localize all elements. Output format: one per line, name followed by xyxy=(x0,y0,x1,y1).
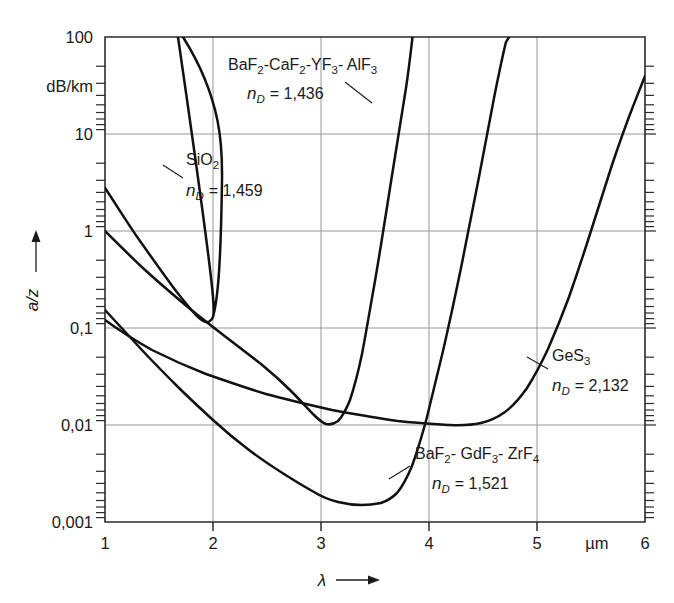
x-tick-label-4: 4 xyxy=(424,534,433,552)
n-letter: n xyxy=(247,84,256,103)
x-major-ticks xyxy=(213,522,537,531)
lbl-a: SiO xyxy=(186,151,213,168)
n-value: = 1,521 xyxy=(455,475,509,492)
y-axis-name-group: a/z xyxy=(23,230,42,311)
label-baf2-caf2-yf3-alf3-index: nD= 1,436 xyxy=(247,84,324,105)
n-sub: D xyxy=(256,93,264,105)
n-letter: n xyxy=(186,181,195,200)
y-tick-label-1: 1 xyxy=(84,222,93,240)
lbl-c: -YF xyxy=(306,56,332,73)
y-axis-unit-caption: dB/km xyxy=(46,77,93,95)
label-sio2-formula: SiO2 xyxy=(186,151,219,171)
y-axis-name: a/z xyxy=(23,288,42,311)
lbl-a-sub: 2 xyxy=(213,159,219,171)
label-baf2-caf2-yf3-alf3-formula: BaF2-CaF2-YF3- AlF3 xyxy=(228,56,377,76)
label-sio2-index: nD= 1,459 xyxy=(186,181,263,202)
x-axis-unit-caption: µm xyxy=(585,534,608,552)
y-minor-ticks-right xyxy=(645,66,656,517)
lbl-b: - GdF xyxy=(451,445,492,462)
y-tick-label-0-01: 0,01 xyxy=(61,416,93,434)
n-sub: D xyxy=(441,483,449,495)
label-ges3-formula: GeS3 xyxy=(552,347,590,367)
curve-baf2-gdf3-zrf4 xyxy=(105,37,509,505)
x-axis-name-group: λ xyxy=(317,571,380,590)
curve-ges3 xyxy=(105,76,645,425)
lbl-a: BaF xyxy=(228,56,258,73)
y-tick-labels: 100 10 1 0,1 0,01 0,001 xyxy=(52,28,93,531)
chart-svg: 100 10 1 0,1 0,01 0,001 dB/km a/z 1 2 3 … xyxy=(0,0,674,603)
label-baf2-gdf3-zrf4-index: nD= 1,521 xyxy=(432,474,509,495)
n-letter: n xyxy=(552,376,561,395)
y-tick-label-10: 10 xyxy=(75,125,93,143)
lbl-c: - ZrF xyxy=(498,445,533,462)
attenuation-chart-figure: 100 10 1 0,1 0,01 0,001 dB/km a/z 1 2 3 … xyxy=(0,0,674,603)
lbl-b: -CaF xyxy=(264,56,300,73)
x-tick-label-2: 2 xyxy=(208,534,217,552)
n-letter: n xyxy=(432,474,441,493)
label-ges3-index: nD= 2,132 xyxy=(552,376,629,397)
lbl-d: - AlF xyxy=(338,56,371,73)
n-sub: D xyxy=(195,190,203,202)
n-value: = 1,436 xyxy=(270,85,324,102)
lbl-a: GeS xyxy=(552,347,584,364)
x-axis-name: λ xyxy=(317,571,326,590)
leader-line-ges3 xyxy=(527,357,548,369)
lbl-c-sub: 4 xyxy=(533,453,540,465)
x-axis-arrow-icon xyxy=(336,576,380,585)
y-axis-arrow-icon xyxy=(32,230,41,272)
label-baf2-gdf3-zrf4-formula: BaF2- GdF3- ZrF4 xyxy=(415,445,540,465)
lbl-d-sub: 3 xyxy=(371,64,377,76)
annotation-baf2-caf2-yf3-alf3: BaF2-CaF2-YF3- AlF3 nD= 1,436 xyxy=(228,56,377,105)
curves-group xyxy=(105,37,645,505)
x-tick-label-3: 3 xyxy=(316,534,325,552)
annotation-ges3: GeS3 nD= 2,132 xyxy=(527,347,629,397)
leader-line-sio2 xyxy=(163,165,183,178)
x-tick-labels: 1 2 3 4 5 6 xyxy=(100,534,649,552)
x-tick-label-6: 6 xyxy=(640,534,649,552)
y-tick-label-0-001: 0,001 xyxy=(52,513,93,531)
lbl-a: BaF xyxy=(415,445,445,462)
x-tick-label-1: 1 xyxy=(100,534,109,552)
lbl-a-sub: 3 xyxy=(584,355,590,367)
y-tick-label-100: 100 xyxy=(65,28,93,46)
n-value: = 2,132 xyxy=(575,377,629,394)
y-minor-ticks xyxy=(96,66,105,517)
n-value: = 1,459 xyxy=(209,182,263,199)
x-tick-label-5: 5 xyxy=(532,534,541,552)
y-tick-label-0-1: 0,1 xyxy=(70,319,93,337)
leader-line-baf2-caf2-yf3-alf3 xyxy=(345,82,372,103)
n-sub: D xyxy=(561,385,569,397)
curve-sio2 xyxy=(105,37,222,322)
